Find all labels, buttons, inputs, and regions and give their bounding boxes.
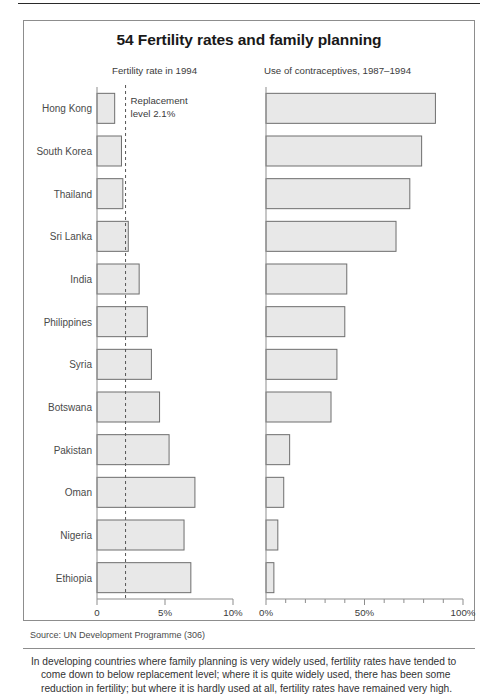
labels-layer: Replacement level 2.1% 05%10%0%50%100%Ho… (24, 21, 476, 622)
category-label-hong-kong: Hong Kong (25, 103, 92, 114)
axis-tick-label: 100% (451, 607, 476, 618)
category-label-pakistan: Pakistan (25, 444, 92, 455)
axis-tick-label: 50% (355, 607, 374, 618)
caption-line-1: In developing countries where family pla… (31, 655, 469, 668)
category-label-south-korea: South Korea (25, 146, 92, 157)
category-label-nigeria: Nigeria (25, 530, 92, 541)
annotation-line-2: level 2.1% (131, 108, 188, 121)
category-label-sri-lanka: Sri Lanka (25, 231, 92, 242)
category-label-ethiopia: Ethiopia (25, 572, 92, 583)
axis-tick-label: 5% (158, 607, 172, 618)
category-label-oman: Oman (25, 487, 92, 498)
replacement-level-annotation: Replacement level 2.1% (131, 95, 188, 120)
axis-tick-label: 0% (259, 607, 273, 618)
page-top-rule (18, 3, 480, 4)
caption-line-2: come down to below replacement level; wh… (31, 668, 469, 681)
category-label-india: India (25, 274, 92, 285)
annotation-line-1: Replacement (131, 95, 188, 108)
figure-caption: In developing countries where family pla… (31, 655, 469, 695)
footer-rule (23, 648, 475, 649)
caption-line-3: reduction in fertility; but where it is … (31, 682, 469, 695)
category-label-syria: Syria (25, 359, 92, 370)
axis-tick-label: 10% (223, 607, 242, 618)
category-label-thailand: Thailand (25, 188, 92, 199)
axis-tick-label: 0 (94, 607, 99, 618)
figure-container: 54 Fertility rates and family planning F… (23, 20, 475, 621)
category-label-botswana: Botswana (25, 402, 92, 413)
source-note: Source: UN Development Programme (306) (30, 630, 205, 640)
category-label-philippines: Philippines (25, 316, 92, 327)
